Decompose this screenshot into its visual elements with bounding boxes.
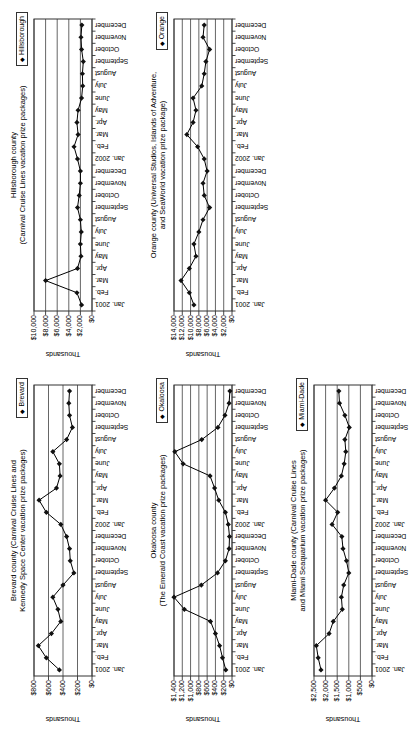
plot-area: [314, 385, 372, 676]
chart-orange: Orange county (Universal Studios, Island…: [140, 0, 280, 366]
plot-svg: [0, 0, 140, 366]
chart-okaloosa: Okaloosa county(The Emerald Coast vacati…: [140, 366, 280, 731]
plot-svg: [140, 366, 280, 731]
chart-hillsborough: Hillsborough county(Carnival Cruise Line…: [0, 0, 140, 366]
charts-page: Hillsborough county(Carnival Cruise Line…: [0, 0, 420, 731]
chart-orange-canvas: Orange county (Universal Studios, Island…: [140, 0, 280, 366]
plot-svg: [140, 0, 280, 366]
month-ticks: [92, 19, 96, 311]
chart-miami-dade: Miami-Dade county (Carnival Cruise Lines…: [280, 366, 420, 731]
month-ticks: [232, 385, 236, 676]
chart-okaloosa-canvas: Okaloosa county(The Emerald Coast vacati…: [140, 366, 280, 731]
month-ticks: [92, 385, 96, 676]
month-ticks: [372, 385, 376, 676]
chart-brevard: Brevard county (Carnival Cruise Lines an…: [0, 366, 140, 731]
chart-miami-dade-canvas: Miami-Dade county (Carnival Cruise Lines…: [280, 366, 420, 731]
month-ticks: [232, 19, 236, 311]
plot-svg: [0, 366, 140, 731]
chart-brevard-canvas: Brevard county (Carnival Cruise Lines an…: [0, 366, 140, 731]
chart-hillsborough-canvas: Hillsborough county(Carnival Cruise Line…: [0, 0, 140, 366]
plot-svg: [280, 366, 420, 731]
